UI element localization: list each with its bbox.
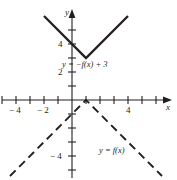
graph-figure: − 4 − 2 4 4 2 − 4 x y y = −f(x) + 3 y = … xyxy=(0,0,177,180)
y-tick-label-minus-4: − 4 xyxy=(50,152,62,161)
x-tick-label-4: 4 xyxy=(126,106,131,115)
x-tick-label-minus-4: − 4 xyxy=(9,106,21,115)
curve-f-of-x xyxy=(10,100,162,176)
y-tick-label-2: 2 xyxy=(58,68,63,77)
x-tick-label-minus-2: − 2 xyxy=(37,106,49,115)
y-tick-label-4: 4 xyxy=(58,40,63,49)
y-axis-label: y xyxy=(65,8,69,17)
x-axis-label: x xyxy=(166,103,170,112)
y-axis-arrowhead xyxy=(69,9,76,18)
plot-canvas xyxy=(0,0,177,180)
curve-label-f-of-x: y = f(x) xyxy=(99,146,125,155)
curve-negative-f-of-x-plus-3 xyxy=(44,16,128,58)
curve-label-negative-f-of-x-plus-3: y = −f(x) + 3 xyxy=(62,60,108,69)
